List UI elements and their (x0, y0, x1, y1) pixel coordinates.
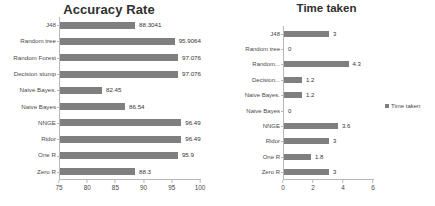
bar-value-label: 1.2 (306, 92, 314, 98)
category-label: Naive Bayes (246, 108, 280, 114)
bar-value-label: 3.6 (342, 123, 350, 129)
category-tick (281, 64, 284, 65)
bar-value-label: 97.076 (182, 71, 201, 77)
legend-label: Time taken (391, 103, 420, 109)
bar-row: J483 (284, 26, 374, 41)
x-axis-tick: 95 (168, 180, 175, 191)
bar-value-label: 97.076 (182, 55, 201, 61)
time-x-axis: 0246 (283, 180, 373, 198)
bar-row: Random tree0 (284, 41, 374, 56)
x-axis-tick: 4 (341, 180, 345, 191)
bar-row: NNGE3.6 (284, 118, 374, 133)
bar (284, 154, 311, 160)
time-bar-rows: J483Random tree0Random...4.3Decision...1… (284, 26, 374, 180)
bar-row: Naive Bayes.1.2 (284, 88, 374, 103)
bar-row: Random...4.3 (284, 57, 374, 72)
bar (60, 71, 178, 78)
x-axis-tick: 80 (84, 180, 91, 191)
bar-row: J4888.3041 (60, 17, 201, 33)
accuracy-plot-area: J4888.3041Random tree95.9064Random Fores… (59, 17, 201, 180)
bar (60, 119, 181, 126)
bar-value-label: 95.9064 (179, 38, 201, 44)
category-label: Naive Bayes. (20, 87, 56, 93)
bar-row: One R1.8 (284, 149, 374, 164)
x-axis-tick: 100 (195, 180, 206, 191)
category-label: NNGE (38, 120, 56, 126)
bar-value-label: 96.49 (185, 120, 200, 126)
category-label: J48 (270, 31, 280, 37)
category-label: Random tree (245, 46, 280, 52)
bar-value-label: 95.9 (182, 152, 194, 158)
bar (60, 136, 181, 143)
bar-value-label: 1.8 (315, 154, 323, 160)
bar (284, 31, 329, 37)
accuracy-x-axis: 7580859095100 (59, 180, 200, 198)
category-tick (57, 107, 60, 108)
bar-value-label: 3 (333, 138, 336, 144)
bar-value-label: 88.3 (139, 169, 151, 175)
category-label: NNGE (263, 123, 280, 129)
category-tick (281, 126, 284, 127)
category-label: Random tree (20, 38, 56, 44)
bar-row: Random Forest97.076 (60, 50, 201, 66)
category-label: J48 (46, 22, 56, 28)
bar (284, 61, 349, 67)
category-tick (57, 123, 60, 124)
bar-row: Ridor96.49 (60, 131, 201, 147)
x-axis-tick: 75 (55, 180, 62, 191)
bar-row: Decision...1.2 (284, 72, 374, 87)
category-label: Zero R (262, 169, 280, 175)
category-tick (281, 80, 284, 81)
category-label: Ridor (41, 136, 56, 142)
category-label: Decision... (252, 77, 280, 83)
bar-value-label: 3 (333, 31, 336, 37)
category-tick (281, 95, 284, 96)
category-label: Naive Bayes. (245, 92, 280, 98)
bar-value-label: 3 (333, 169, 336, 175)
bar (60, 22, 135, 29)
x-axis-tick: 0 (281, 180, 285, 191)
bar-value-label: 4.3 (353, 61, 361, 67)
bar (60, 168, 135, 175)
charts-page: Accuracy Rate J4888.3041Random tree95.90… (0, 0, 435, 206)
category-tick (57, 139, 60, 140)
bar-value-label: 1.2 (306, 77, 314, 83)
chart-title-accuracy: Accuracy Rate (0, 2, 218, 17)
category-tick (281, 49, 284, 50)
category-tick (57, 172, 60, 173)
accuracy-rate-chart: Accuracy Rate J4888.3041Random tree95.90… (0, 0, 218, 206)
bar (284, 123, 338, 129)
bar (284, 138, 329, 144)
bar-value-label: 0 (288, 108, 291, 114)
category-tick (281, 111, 284, 112)
category-label: Random... (252, 61, 280, 67)
x-axis-tick: 85 (112, 180, 119, 191)
bar (60, 54, 178, 61)
category-label: Ridor (266, 138, 280, 144)
category-tick (281, 34, 284, 35)
category-tick (57, 41, 60, 42)
chart-title-time: Time taken (218, 2, 435, 14)
time-plot-area: J483Random tree0Random...4.3Decision...1… (283, 26, 374, 180)
bar-value-label: 88.3041 (139, 22, 161, 28)
category-tick (57, 90, 60, 91)
category-tick (281, 157, 284, 158)
category-label: One R (38, 152, 56, 158)
bar-value-label: 96.49 (185, 136, 200, 142)
bar-row: One R95.9 (60, 147, 201, 163)
bar-value-label: 82.45 (106, 87, 121, 93)
legend-swatch-icon (385, 104, 389, 108)
x-axis-tick: 2 (311, 180, 315, 191)
bar (60, 103, 125, 110)
bar-row: Naive Bayes.82.45 (60, 82, 201, 98)
bar (284, 169, 329, 175)
bar-row: Ridor3 (284, 134, 374, 149)
bar-value-label: 86.54 (129, 104, 144, 110)
accuracy-bar-rows: J4888.3041Random tree95.9064Random Fores… (60, 17, 201, 180)
category-tick (281, 141, 284, 142)
bar-row: NNGE96.49 (60, 115, 201, 131)
time-taken-chart: Time taken J483Random tree0Random...4.3D… (218, 0, 435, 206)
category-tick (57, 58, 60, 59)
bar (284, 77, 302, 83)
bar-row: Zero R3 (284, 165, 374, 180)
